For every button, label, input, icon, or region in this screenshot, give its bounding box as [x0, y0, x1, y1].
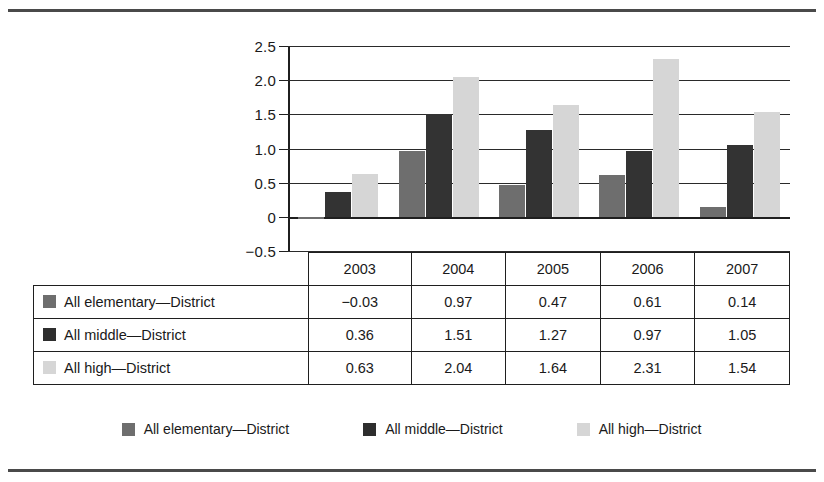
chart-legend: All elementary—DistrictAll middle—Distri… — [33, 421, 790, 437]
series-swatch-icon — [43, 361, 56, 374]
table-cell: 1.64 — [506, 351, 601, 384]
bar — [553, 105, 579, 217]
table-column-header: 2004 — [411, 253, 506, 286]
table-row: All middle—District0.361.511.270.971.05 — [34, 318, 790, 351]
table-column-header: 2005 — [506, 253, 601, 286]
bar — [626, 151, 652, 217]
gridline — [288, 114, 790, 115]
table-cell: 1.54 — [695, 351, 790, 384]
legend-label: All middle—District — [385, 421, 502, 437]
y-axis-tick-label: 1.5 — [255, 106, 276, 123]
bar — [298, 217, 324, 219]
bar — [325, 192, 351, 217]
table-cell: −0.03 — [309, 285, 412, 318]
table-column-header: 2007 — [695, 253, 790, 286]
table-cell: 0.63 — [309, 351, 412, 384]
bar — [499, 185, 525, 217]
series-swatch-icon — [43, 328, 56, 341]
legend-swatch-icon — [577, 423, 590, 436]
data-table: 20032004200520062007All elementary—Distr… — [33, 252, 790, 385]
table-cell: 2.04 — [411, 351, 506, 384]
bar — [399, 151, 425, 217]
table-row-label: All middle—District — [34, 318, 309, 351]
bar — [426, 114, 452, 217]
y-axis-tick — [279, 80, 288, 81]
series-swatch-icon — [43, 295, 56, 308]
y-axis-tick-label: 0.5 — [255, 174, 276, 191]
bar — [727, 145, 753, 217]
table-cell: 0.14 — [695, 285, 790, 318]
bar — [526, 130, 552, 217]
table-cell: 0.36 — [309, 318, 412, 351]
gridline — [288, 80, 790, 81]
table-row-label-text: All elementary—District — [64, 294, 215, 310]
bar — [754, 112, 780, 217]
table-row-label: All elementary—District — [34, 285, 309, 318]
y-axis-tick-label: 2.5 — [255, 38, 276, 55]
gridline — [288, 217, 790, 219]
legend-item: All middle—District — [363, 421, 502, 437]
y-axis-tick — [279, 149, 288, 150]
legend-item: All high—District — [577, 421, 702, 437]
figure-top-rule — [8, 9, 816, 12]
y-axis-tick — [279, 183, 288, 184]
bar — [352, 174, 378, 217]
bar — [599, 175, 625, 217]
table-cell: 0.97 — [411, 285, 506, 318]
y-axis-tick — [279, 114, 288, 115]
table-row: All high—District0.632.041.642.311.54 — [34, 351, 790, 384]
table-row-label-text: All high—District — [64, 360, 170, 376]
figure-bottom-rule — [8, 469, 816, 472]
legend-swatch-icon — [122, 423, 135, 436]
legend-item: All elementary—District — [122, 421, 289, 437]
table-header-row: 20032004200520062007 — [34, 253, 790, 286]
legend-label: All high—District — [599, 421, 702, 437]
table-row-label: All high—District — [34, 351, 309, 384]
table-cell: 0.47 — [506, 285, 601, 318]
y-axis-tick — [279, 46, 288, 47]
bar — [700, 207, 726, 217]
table-cell: 2.31 — [600, 351, 695, 384]
table-cell: 1.05 — [695, 318, 790, 351]
y-axis-tick — [279, 217, 288, 218]
legend-swatch-icon — [363, 423, 376, 436]
table-cell: 1.27 — [506, 318, 601, 351]
table-row: All elementary—District−0.030.970.470.61… — [34, 285, 790, 318]
y-axis-tick-label: 1.0 — [255, 140, 276, 157]
table-corner-cell — [34, 253, 309, 286]
bar — [653, 59, 679, 217]
plot-area: 2.52.01.51.00.50−0.5 — [288, 46, 790, 251]
table-column-header: 2003 — [309, 253, 412, 286]
y-axis-tick-label: 2.0 — [255, 72, 276, 89]
table-cell: 1.51 — [411, 318, 506, 351]
gridline — [288, 46, 790, 47]
table-cell: 0.97 — [600, 318, 695, 351]
bar — [453, 77, 479, 216]
table-cell: 0.61 — [600, 285, 695, 318]
legend-label: All elementary—District — [144, 421, 289, 437]
y-axis-tick-label: 0 — [267, 208, 276, 225]
table-row-label-text: All middle—District — [64, 327, 186, 343]
chart-figure: 2.52.01.51.00.50−0.5 2003200420052006200… — [0, 0, 824, 482]
table-column-header: 2006 — [600, 253, 695, 286]
